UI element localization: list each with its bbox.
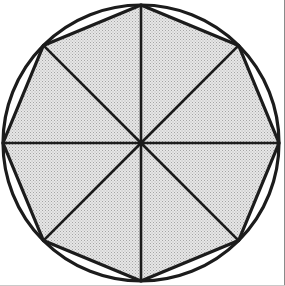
center-dot <box>139 141 144 146</box>
image-right-border <box>284 0 285 286</box>
octagon-in-circle-diagram <box>0 0 285 286</box>
geometric-figure-canvas <box>0 0 285 286</box>
center-point <box>139 141 144 146</box>
